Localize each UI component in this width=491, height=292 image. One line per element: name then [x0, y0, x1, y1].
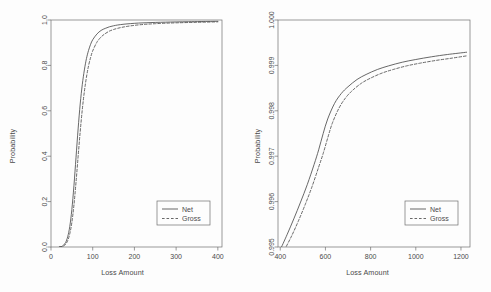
x-tick-label: 600: [320, 253, 332, 260]
x-axis-title-left: Loss Amount: [0, 268, 245, 277]
legend-label-gross: Gross: [430, 215, 449, 222]
y-tick-label: 1.0: [41, 15, 48, 25]
legend-label-gross: Gross: [182, 215, 201, 222]
y-axis-title-left: Probability: [8, 116, 17, 176]
y-tick-label: 0.995: [268, 238, 275, 256]
plot-area-left: 01002003004000.00.20.40.60.81.0NetGross: [0, 0, 245, 292]
x-axis-title-right: Loss Amount: [245, 268, 490, 277]
y-tick-label: 0.6: [41, 106, 48, 116]
chart-panel-right: 400600800100012000.9950.9960.9970.9980.9…: [245, 0, 490, 292]
chart-panel-left: 01002003004000.00.20.40.60.81.0NetGross …: [0, 0, 245, 292]
y-tick-label: 0.996: [268, 193, 275, 211]
legend: NetGross: [157, 201, 210, 225]
plot-area-right: 400600800100012000.9950.9960.9970.9980.9…: [245, 0, 490, 292]
legend: NetGross: [405, 201, 458, 225]
x-tick-label: 400: [274, 253, 286, 260]
y-tick-label: 1.000: [268, 11, 275, 29]
x-tick-label: 300: [170, 253, 182, 260]
y-tick-label: 0.4: [41, 151, 48, 161]
y-tick-label: 0.999: [268, 57, 275, 75]
x-tick-label: 0: [49, 253, 53, 260]
y-tick-label: 0.8: [41, 60, 48, 70]
x-tick-label: 1000: [408, 253, 424, 260]
y-tick-label: 0.2: [41, 197, 48, 207]
x-tick-label: 1200: [453, 253, 469, 260]
x-tick-label: 400: [212, 253, 224, 260]
x-tick-label: 200: [129, 253, 141, 260]
y-axis-title-right: Probability: [253, 116, 262, 176]
legend-label-net: Net: [182, 206, 193, 213]
y-tick-label: 0.997: [268, 147, 275, 165]
x-tick-label: 800: [365, 253, 377, 260]
y-tick-label: 0.0: [41, 242, 48, 252]
y-tick-label: 0.998: [268, 102, 275, 120]
figure: 01002003004000.00.20.40.60.81.0NetGross …: [0, 0, 491, 292]
legend-label-net: Net: [430, 206, 441, 213]
x-tick-label: 100: [87, 253, 99, 260]
